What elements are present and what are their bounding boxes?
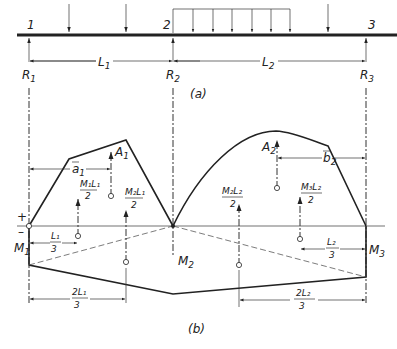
minus-sign: – — [18, 225, 24, 239]
reaction-r1-label: R1 — [22, 68, 36, 84]
frac-l2-3-den: 3 — [329, 250, 335, 260]
frac-l2-3-num: L₂ — [327, 237, 336, 247]
frac-2l1-3-den: 3 — [74, 300, 80, 310]
continuous-beam-diagram: 1 2 3 R1 R2 R3 L1 L2 (a) — [0, 0, 397, 349]
node-1-label: 1 — [27, 18, 35, 32]
frac-m2l1-num: M₂L₁ — [125, 187, 145, 197]
moment-m2-label: M2 — [178, 254, 194, 270]
moment-m1-label: M1 — [14, 241, 30, 257]
centroid-b2-label: b2 — [323, 151, 337, 167]
frac-m3l2-den: 2 — [308, 195, 314, 205]
node-2-label: 2 — [163, 18, 171, 32]
reaction-r2-label: R2 — [166, 68, 180, 84]
caption-b: (b) — [188, 322, 205, 336]
span-l2-label: L2 — [262, 55, 275, 71]
frac-m3l2-num: M₃L₂ — [301, 182, 321, 192]
plus-sign: + — [17, 210, 27, 224]
frac-2l1-3-num: 2L₁ — [72, 287, 87, 297]
node-3-label: 3 — [368, 18, 376, 32]
span-l1-label: L1 — [98, 55, 110, 71]
reaction-r3-label: R3 — [360, 68, 374, 84]
distributed-load — [173, 9, 290, 33]
caption-a: (a) — [190, 87, 207, 101]
area-a2-label: A2 — [261, 140, 276, 156]
beam-loading-diagram: 1 2 3 R1 R2 R3 L1 L2 (a) — [17, 4, 397, 101]
moment-diagram: + – M1 M2 M3 A1 A2 a1 b2 M₁L₁ 2 M₂L₁ 2 M… — [14, 88, 385, 336]
frac-l1-3-den: 3 — [51, 244, 57, 254]
area-a1-label: A1 — [114, 145, 129, 161]
frac-m2l1-den: 2 — [131, 200, 137, 210]
frac-2l2-3-num: 2L₂ — [296, 288, 311, 298]
centroid-a1-label: a1 — [72, 162, 85, 178]
frac-l1-3-num: L₁ — [51, 231, 60, 241]
frac-2l2-3-den: 3 — [299, 301, 305, 311]
frac-m2l2-den: 2 — [230, 199, 236, 209]
frac-m2l2-num: M₂L₂ — [222, 186, 242, 196]
moment-m3-label: M3 — [369, 243, 385, 259]
frac-m1l1-den: 2 — [85, 191, 91, 201]
simple-moment-span1 — [29, 140, 173, 226]
frac-m1l1-num: M₁L₁ — [80, 179, 100, 189]
